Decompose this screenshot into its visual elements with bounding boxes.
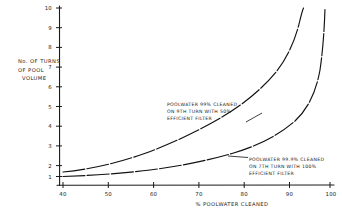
annotation-lower-line2: ON 7TH TURN WITH 100% xyxy=(249,164,317,169)
x-tick-label: 50 xyxy=(105,191,113,197)
y-tick-label: 8 xyxy=(48,44,52,50)
x-tick-label: 90 xyxy=(286,191,294,197)
chart-canvas: 10 9 8 7 6 5 4 3 2 1 No. OF TURNS OF POO… xyxy=(0,0,342,211)
y-tick-label: 5 xyxy=(48,104,52,110)
y-tick-label: 7 xyxy=(48,64,52,70)
curve-50-percent-filter xyxy=(63,8,304,172)
y-tick-label: 6 xyxy=(48,84,52,90)
annotation-lower: POOLWATER 99.9% CLEANED ON 7TH TURN WITH… xyxy=(228,156,324,176)
x-tick-label: 100 xyxy=(326,191,337,197)
x-tick-label: 80 xyxy=(241,191,249,197)
y-axis-title-line1: No. OF TURNS xyxy=(18,58,60,64)
y-tick-label: 1 xyxy=(48,174,52,180)
y-axis-title-line3: VOLUME xyxy=(22,75,46,81)
annotation-upper-line1: POOLWATER 99% CLEANED xyxy=(167,102,237,107)
annotation-lower-line1: POOLWATER 99.9% CLEANED xyxy=(249,157,324,162)
curve-100-percent-filter xyxy=(63,8,325,177)
y-tick-label: 4 xyxy=(48,123,52,129)
annotation-lower-line3: EFFICIENT FILTER xyxy=(249,171,295,176)
sketch-line-chart: 10 9 8 7 6 5 4 3 2 1 No. OF TURNS OF POO… xyxy=(0,0,342,211)
annotation-upper-line2: ON 9TH TURN WITH 50% xyxy=(167,109,232,114)
y-tick-label: 9 xyxy=(48,25,52,31)
x-axis-title: % POOLWATER CLEANED xyxy=(195,201,268,207)
y-tick-labels: 10 9 8 7 6 5 4 3 2 1 xyxy=(45,5,53,180)
y-axis-title: No. OF TURNS OF POOL VOLUME xyxy=(18,58,60,81)
y-axis-title-line2: OF POOL xyxy=(18,67,44,73)
x-tick-label: 70 xyxy=(195,191,203,197)
annotation-upper-leader xyxy=(246,113,262,122)
x-tick-label: 60 xyxy=(150,191,158,197)
x-tick-labels: 40 50 60 70 80 90 100 xyxy=(59,191,336,197)
annotation-lower-leader xyxy=(228,156,248,158)
annotation-upper-line3: EFFICIENT FILTER xyxy=(167,116,213,121)
annotation-upper: POOLWATER 99% CLEANED ON 9TH TURN WITH 5… xyxy=(167,102,262,122)
y-tick-label: 3 xyxy=(48,143,52,149)
x-tick-label: 40 xyxy=(59,191,67,197)
y-tick-label: 10 xyxy=(45,5,53,11)
y-tick-label: 2 xyxy=(48,163,52,169)
